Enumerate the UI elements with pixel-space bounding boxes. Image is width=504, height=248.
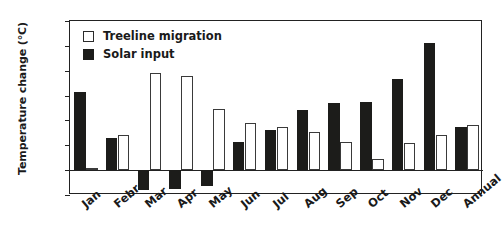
bar-solar-jan xyxy=(74,92,86,170)
y-tick-mark xyxy=(65,46,70,47)
bar-treeline-dec xyxy=(436,135,448,170)
bar-solar-sep xyxy=(328,103,340,170)
y-tick-mark xyxy=(65,145,70,146)
bar-solar-annual xyxy=(455,127,467,171)
y-tick-mark xyxy=(65,71,70,72)
legend-swatch-filled-square-icon xyxy=(83,49,94,60)
y-tick-mark xyxy=(65,170,70,171)
bar-treeline-jan xyxy=(86,168,98,170)
bar-treeline-oct xyxy=(372,159,384,170)
legend-item-solar-input: Solar input xyxy=(83,45,222,63)
bar-solar-may xyxy=(201,170,213,186)
bar-solar-febr xyxy=(106,138,118,170)
legend-item-treeline-migration: Treeline migration xyxy=(83,27,222,45)
legend-swatch-open-square-icon xyxy=(83,31,94,42)
bar-solar-aug xyxy=(297,110,309,170)
bar-solar-dec xyxy=(424,43,436,170)
bar-treeline-may xyxy=(213,109,225,170)
bar-solar-apr xyxy=(169,170,181,189)
bar-treeline-mar xyxy=(150,73,162,170)
y-tick-mark xyxy=(65,21,70,22)
y-tick-mark xyxy=(65,96,70,97)
bar-solar-oct xyxy=(360,102,372,170)
bar-treeline-jun xyxy=(245,123,257,170)
plot-area: Treeline migration Solar input xyxy=(69,20,482,194)
bar-treeline-febr xyxy=(118,135,130,170)
bar-solar-jun xyxy=(233,142,245,171)
bar-solar-mar xyxy=(138,170,150,190)
bar-solar-jul xyxy=(265,130,277,170)
bar-treeline-annual xyxy=(467,125,479,170)
bar-treeline-apr xyxy=(181,76,193,170)
bar-solar-nov xyxy=(392,79,404,170)
bar-treeline-sep xyxy=(340,142,352,171)
chart-legend: Treeline migration Solar input xyxy=(83,27,222,63)
y-tick-mark xyxy=(65,195,70,196)
y-axis-title: Temperature change (°C) xyxy=(16,9,29,189)
legend-label-solar-input: Solar input xyxy=(103,47,175,61)
bar-treeline-jul xyxy=(277,127,289,171)
zero-baseline xyxy=(70,170,483,171)
bar-treeline-nov xyxy=(404,143,416,170)
y-tick-mark xyxy=(65,120,70,121)
legend-label-treeline-migration: Treeline migration xyxy=(103,29,222,43)
bar-treeline-aug xyxy=(309,132,321,171)
